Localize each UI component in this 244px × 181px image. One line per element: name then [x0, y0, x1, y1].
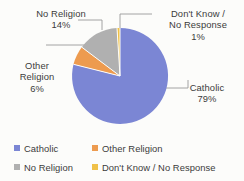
legend-item-catholic[interactable]: Catholic: [14, 143, 92, 154]
legend-row: No Religion Don't Know / No Response: [0, 159, 244, 175]
pie-plot-area: No Religion 14% Don't Know / No Response…: [0, 0, 244, 134]
pie-label-dont-know-text-line2: No Response: [169, 19, 227, 30]
pie-label-dont-know: Don't Know / No Response 1%: [155, 8, 241, 42]
pie-label-other-religion-percent: 6%: [6, 83, 68, 94]
pie-label-other-religion-text-line1: Other: [25, 60, 49, 71]
pie-label-catholic-percent: 79%: [174, 93, 240, 104]
leader-line-dont-know: [120, 14, 152, 28]
legend-label-catholic: Catholic: [24, 143, 58, 154]
legend-swatch-no-religion: [14, 164, 20, 170]
pie-chart-figure: No Religion 14% Don't Know / No Response…: [0, 0, 244, 181]
legend-item-dont-know[interactable]: Don't Know / No Response: [92, 162, 215, 173]
pie-label-dont-know-percent: 1%: [155, 31, 241, 42]
legend-label-other-religion: Other Religion: [102, 143, 163, 154]
legend-swatch-other-religion: [92, 145, 98, 151]
pie-label-no-religion-text: No Religion: [36, 8, 86, 19]
pie-label-no-religion-percent: 14%: [22, 19, 100, 30]
legend-label-no-religion: No Religion: [24, 162, 73, 173]
pie-label-no-religion: No Religion 14%: [22, 8, 100, 31]
legend-item-no-religion[interactable]: No Religion: [14, 162, 92, 173]
legend-label-dont-know: Don't Know / No Response: [102, 162, 215, 173]
pie-label-catholic: Catholic 79%: [174, 82, 240, 105]
pie-label-catholic-text: Catholic: [190, 82, 225, 93]
pie-label-dont-know-text-line1: Don't Know /: [171, 8, 225, 19]
legend-row: Catholic Other Religion: [0, 140, 244, 156]
pie-label-other-religion: Other Religion 6%: [6, 60, 68, 94]
chart-legend: Catholic Other Religion No Religion Don'…: [0, 140, 244, 176]
legend-item-other-religion[interactable]: Other Religion: [92, 143, 163, 154]
pie-label-other-religion-text-line2: Religion: [20, 71, 55, 82]
legend-swatch-dont-know: [92, 164, 98, 170]
legend-swatch-catholic: [14, 145, 20, 151]
